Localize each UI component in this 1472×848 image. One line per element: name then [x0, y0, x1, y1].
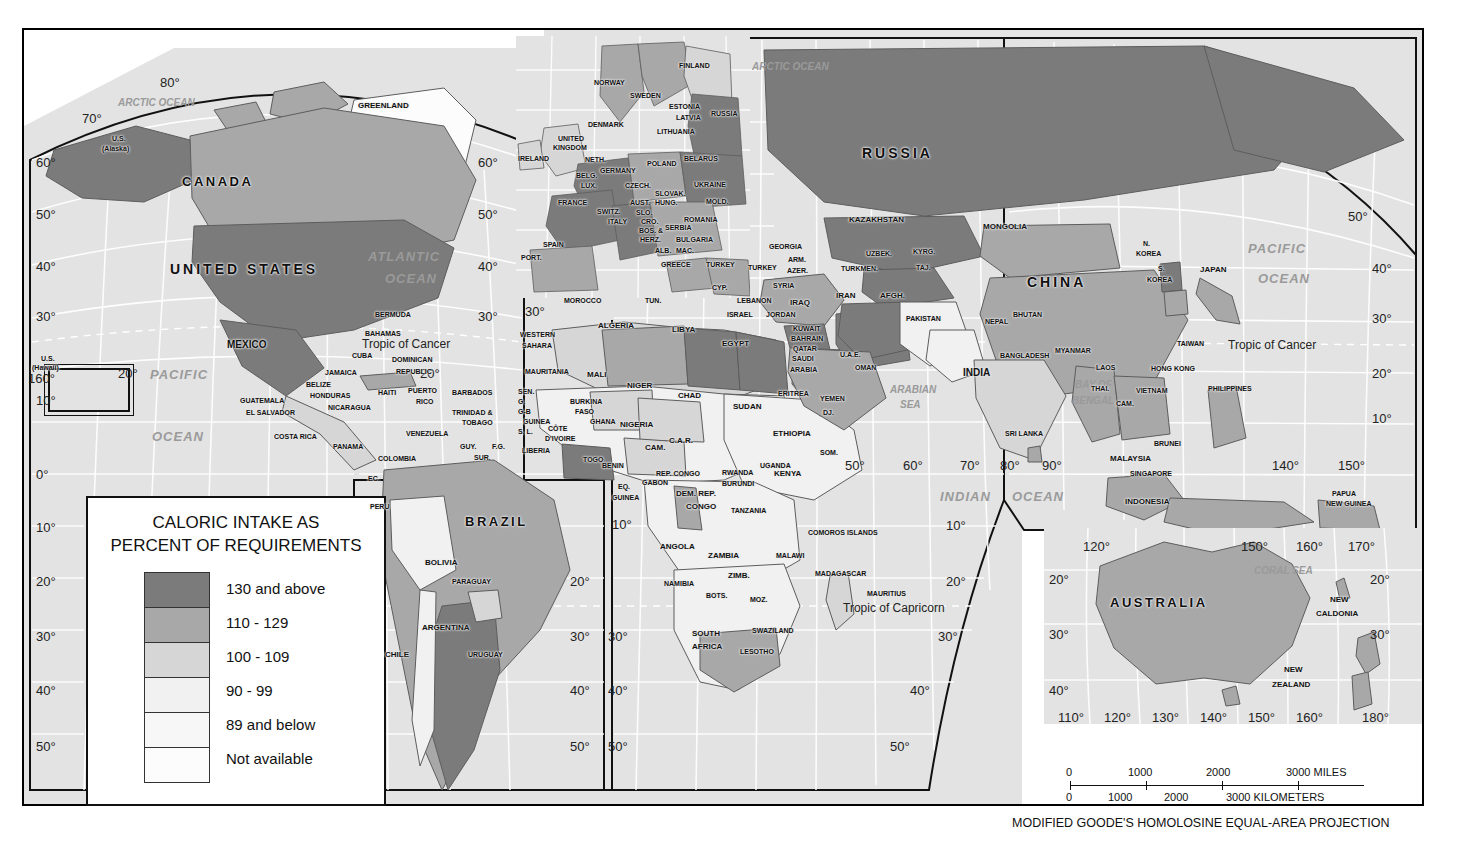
- legend-key-labels: 130 and above110 - 129100 - 10990 - 9989…: [226, 572, 384, 776]
- legend-label-0: 130 and above: [226, 572, 384, 606]
- legend-title: CALORIC INTAKE AS PERCENT OF REQUIREMENT…: [88, 498, 384, 558]
- legend-swatch-3: [145, 678, 209, 713]
- projection-note: MODIFIED GOODE'S HOMOLOSINE EQUAL-AREA P…: [1012, 816, 1389, 830]
- scale-kilometers-labels: 0100020003000 KILOMETERS: [1064, 791, 1364, 805]
- scale-tick-kmnums-1: 1000: [1108, 791, 1132, 803]
- map-page: CALORIC INTAKE AS PERCENT OF REQUIREMENT…: [0, 0, 1472, 848]
- legend-label-1: 110 - 129: [226, 606, 384, 640]
- scale-bar: 0100020003000 MILES 0100020003000 KILOME…: [1064, 766, 1364, 805]
- legend-title-line1: CALORIC INTAKE AS: [153, 513, 320, 532]
- scale-tick-kmnums-3: 3000 KILOMETERS: [1226, 791, 1324, 803]
- legend-label-4: 89 and below: [226, 708, 384, 742]
- legend-swatch-1: [145, 608, 209, 643]
- legend-swatch-5: [145, 748, 209, 782]
- scale-tick-milesnums-0: 0: [1066, 766, 1072, 778]
- legend-swatch-0: [145, 573, 209, 608]
- scale-tick-milesnums-3: 3000 MILES: [1286, 766, 1347, 778]
- legend-title-line2: PERCENT OF REQUIREMENTS: [111, 536, 362, 555]
- ocean-field-eastern: [1022, 30, 1422, 530]
- hawaii-inset: [48, 368, 130, 412]
- europe-inset-svg: [516, 36, 750, 298]
- legend-swatch-4: [145, 713, 209, 748]
- legend-rows: 130 and above110 - 129100 - 10990 - 9989…: [144, 572, 384, 776]
- legend-label-3: 90 - 99: [226, 674, 384, 708]
- scale-tick-kmnums-2: 2000: [1164, 791, 1188, 803]
- scale-tick-milesnums-2: 2000: [1206, 766, 1230, 778]
- oceania-inset-svg: [1044, 528, 1422, 724]
- map-legend: CALORIC INTAKE AS PERCENT OF REQUIREMENT…: [86, 496, 386, 806]
- legend-swatch-column: [144, 572, 210, 783]
- scale-miles-labels: 0100020003000 MILES: [1064, 766, 1364, 780]
- map-frame: CALORIC INTAKE AS PERCENT OF REQUIREMENT…: [22, 28, 1424, 806]
- scale-tick-milesnums-1: 1000: [1128, 766, 1152, 778]
- scale-bar-axis: [1064, 781, 1364, 790]
- scale-tick-kmnums-0: 0: [1066, 791, 1072, 803]
- legend-label-2: 100 - 109: [226, 640, 384, 674]
- legend-swatch-2: [145, 643, 209, 678]
- legend-label-5: Not available: [226, 742, 384, 776]
